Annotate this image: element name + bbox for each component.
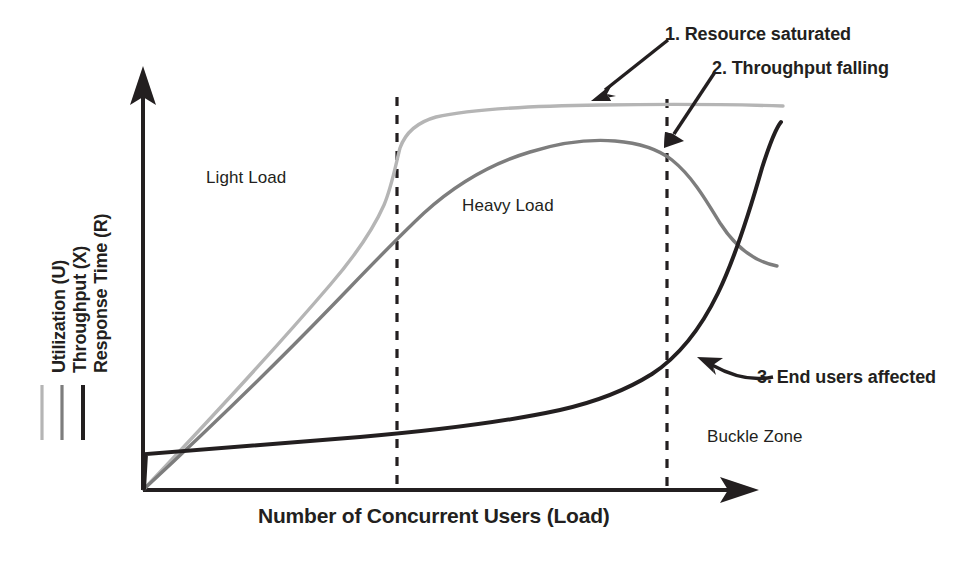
performance-curve-chart bbox=[0, 0, 957, 563]
legend-label-response-time: Response Time (R) bbox=[92, 214, 110, 373]
callout-label-throughput-falling: 2. Throughput falling bbox=[712, 59, 889, 77]
callout-label-resource-saturated: 1. Resource saturated bbox=[665, 25, 851, 43]
x-axis-title: Number of Concurrent Users (Load) bbox=[258, 505, 610, 526]
curve-utilization bbox=[144, 104, 783, 489]
callout-label-end-users-affected: 3. End users affected bbox=[757, 368, 936, 386]
zone-label-heavy-load: Heavy Load bbox=[462, 197, 554, 214]
callout-arrow-2-icon bbox=[664, 72, 715, 148]
legend-label-utilization: Utilization (U) bbox=[50, 260, 68, 373]
callout-arrow-1-icon bbox=[591, 40, 668, 101]
legend-label-throughput: Throughput (X) bbox=[71, 246, 89, 373]
curve-throughput bbox=[144, 140, 777, 489]
axes-group bbox=[130, 66, 759, 503]
zone-label-light-load: Light Load bbox=[206, 169, 286, 186]
legend-swatches-group bbox=[42, 385, 83, 440]
zone-label-buckle-zone: Buckle Zone bbox=[707, 428, 803, 445]
callout-arrows-group bbox=[591, 40, 773, 379]
chart-canvas: Utilization (U) Throughput (X) Response … bbox=[0, 0, 957, 563]
